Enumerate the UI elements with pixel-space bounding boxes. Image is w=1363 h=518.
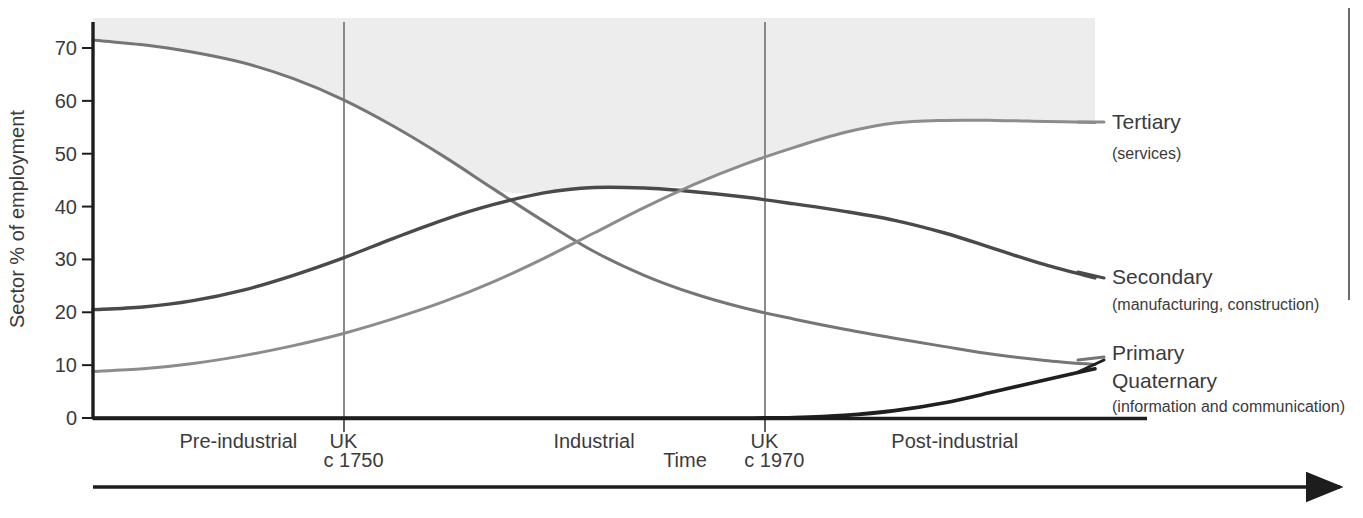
series-line-secondary — [93, 187, 1095, 309]
legend-sublabel-secondary: (manufacturing, construction) — [1112, 296, 1319, 313]
employment-sector-chart: 010203040506070 Sector % of employment P… — [0, 0, 1363, 518]
chart-canvas: 010203040506070 Sector % of employment P… — [0, 0, 1363, 518]
y-axis-title: Sector % of employment — [6, 110, 28, 328]
legend-label-tertiary: Tertiary — [1112, 110, 1181, 133]
legend-sublabel-tertiary: (services) — [1112, 145, 1181, 162]
y-tick-group: 010203040506070 — [55, 37, 93, 429]
y-tick-label: 20 — [55, 301, 77, 323]
date-label-uk-1970: c 1970 — [744, 449, 804, 471]
legend-sublabel-quaternary: (information and communication) — [1112, 398, 1345, 415]
legend-label-secondary: Secondary — [1112, 265, 1213, 288]
y-tick-label: 70 — [55, 37, 77, 59]
y-tick-label: 30 — [55, 248, 77, 270]
date-label-uk-1750: c 1750 — [323, 449, 383, 471]
x-axis-title: Time — [663, 449, 707, 471]
y-tick-label: 60 — [55, 90, 77, 112]
y-axis: 010203040506070 — [55, 22, 93, 429]
era-label-post-industrial: Post-industrial — [891, 430, 1018, 452]
legend-label-primary: Primary — [1112, 341, 1185, 364]
y-tick-label: 50 — [55, 143, 77, 165]
y-tick-label: 10 — [55, 354, 77, 376]
era-label-industrial: Industrial — [553, 430, 634, 452]
series-line-quaternary — [93, 369, 1095, 418]
legend-connector-primary — [1078, 357, 1104, 360]
y-tick-label: 0 — [66, 407, 77, 429]
era-label-pre-industrial: Pre-industrial — [179, 430, 297, 452]
era-label-row: Pre-industrialUKIndustrialUKPost-industr… — [179, 430, 1018, 452]
y-tick-label: 40 — [55, 196, 77, 218]
legend-label-quaternary: Quaternary — [1112, 369, 1218, 392]
plot-shaded-region — [93, 18, 1095, 193]
date-annotation-row: c 1750c 1970 — [323, 449, 804, 471]
legend: Tertiary (services) Secondary (manufactu… — [1112, 110, 1345, 415]
